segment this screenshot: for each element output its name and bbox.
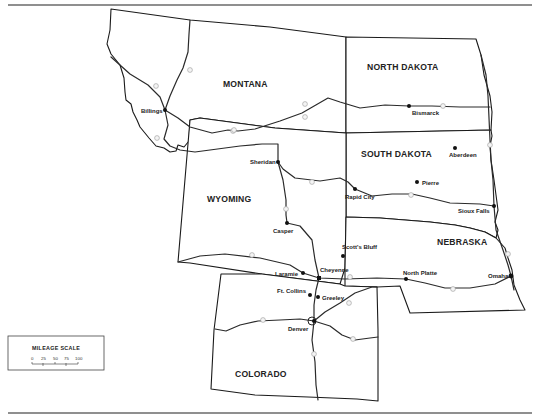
svg-text:North Platte: North Platte xyxy=(403,270,438,276)
svg-text:Casper: Casper xyxy=(273,228,294,234)
state-label-colorado: COLORADO xyxy=(235,369,287,379)
state-label-south-dakota: SOUTH DAKOTA xyxy=(361,149,432,159)
svg-text:Omaha: Omaha xyxy=(488,273,509,279)
svg-text:Sioux Falls: Sioux Falls xyxy=(458,208,490,214)
state-north-dakota xyxy=(346,37,492,133)
state-label-wyoming: WYOMING xyxy=(207,194,251,204)
svg-text:Ft. Collins: Ft. Collins xyxy=(277,288,307,294)
svg-text:Aberdeen: Aberdeen xyxy=(449,152,477,158)
legend-tick-25: 25 xyxy=(41,356,46,361)
legend-title: MILEAGE SCALE xyxy=(32,345,80,351)
svg-text:Greeley: Greeley xyxy=(322,295,345,301)
svg-text:Bismarck: Bismarck xyxy=(412,110,440,116)
svg-text:Cheyenne: Cheyenne xyxy=(320,267,349,273)
region-map: MONTANA NORTH DAKOTA SOUTH DAKOTA WYOMIN… xyxy=(0,0,541,416)
legend-tick-100: 100 xyxy=(75,356,83,361)
city-sheridan: Sheridan xyxy=(250,159,280,165)
svg-text:Scott's Bluff: Scott's Bluff xyxy=(342,244,378,250)
legend-tick-50: 50 xyxy=(53,356,58,361)
svg-text:Denver: Denver xyxy=(288,326,309,332)
svg-text:Pierre: Pierre xyxy=(422,180,440,186)
svg-text:Billings: Billings xyxy=(141,108,163,114)
state-label-montana: MONTANA xyxy=(223,79,268,89)
svg-text:Rapid City: Rapid City xyxy=(345,194,375,200)
state-wyoming xyxy=(178,118,346,284)
state-label-north-dakota: NORTH DAKOTA xyxy=(367,62,438,72)
legend-tick-75: 75 xyxy=(64,356,69,361)
svg-text:Sheridan: Sheridan xyxy=(250,159,276,165)
state-label-nebraska: NEBRASKA xyxy=(437,237,487,247)
svg-text:Laramie: Laramie xyxy=(275,271,299,277)
mileage-scale-legend: MILEAGE SCALE 0 25 50 75 100 xyxy=(8,336,104,370)
